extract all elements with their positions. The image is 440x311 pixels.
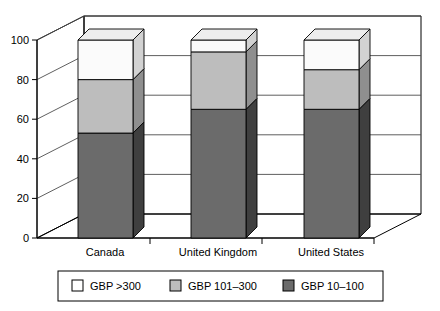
y-axis — [32, 40, 37, 238]
legend: GBP >300 GBP 101–300 GBP 10–100 — [58, 271, 383, 301]
bar-top-canada[interactable] — [78, 29, 144, 40]
x-axis — [37, 238, 374, 244]
x-axis-category-labels: Canada United Kingdom United States — [86, 246, 365, 258]
bar-segment-canada-2[interactable] — [78, 40, 133, 80]
y-tick-label: 60 — [17, 113, 29, 125]
legend-label-gbp-101-300: GBP 101–300 — [188, 280, 257, 292]
y-tick-label: 80 — [17, 74, 29, 86]
bar-top-united-kingdom[interactable] — [191, 29, 257, 40]
bar-segment-canada-1[interactable] — [78, 80, 133, 133]
bar-segment-united-states-2[interactable] — [304, 40, 359, 70]
legend-label-gbp-over-300: GBP >300 — [90, 280, 141, 292]
y-tick-label: 40 — [17, 153, 29, 165]
legend-swatch-gbp-over-300 — [72, 280, 83, 291]
bar-top-united-states[interactable] — [304, 29, 370, 40]
legend-swatch-gbp-10-100 — [283, 280, 294, 291]
bar-segment-united-kingdom-1[interactable] — [191, 52, 246, 109]
bar-side-united-kingdom-0[interactable] — [246, 98, 257, 238]
stacked-bar-chart: 100 80 60 40 20 0 Canada United Kingdom … — [0, 0, 440, 311]
bar-segment-united-kingdom-0[interactable] — [191, 109, 246, 238]
y-axis-tick-labels: 100 80 60 40 20 0 — [11, 34, 29, 244]
bar-side-canada-0[interactable] — [133, 122, 144, 238]
y-tick-label: 20 — [17, 192, 29, 204]
bar-segment-canada-0[interactable] — [78, 133, 133, 238]
chart-container: 100 80 60 40 20 0 Canada United Kingdom … — [0, 0, 440, 311]
legend-swatch-gbp-101-300 — [170, 280, 181, 291]
bar-segment-united-states-1[interactable] — [304, 70, 359, 110]
y-tick-label: 100 — [11, 34, 29, 46]
category-label-united-kingdom: United Kingdom — [179, 246, 257, 258]
category-label-canada: Canada — [86, 246, 125, 258]
bar-side-united-states-0[interactable] — [359, 98, 370, 238]
bars-group — [78, 29, 370, 238]
bar-side-united-kingdom-1[interactable] — [246, 41, 257, 109]
category-label-united-states: United States — [298, 246, 365, 258]
bar-segment-united-states-0[interactable] — [304, 109, 359, 238]
bar-segment-united-kingdom-2[interactable] — [191, 40, 246, 52]
legend-label-gbp-10-100: GBP 10–100 — [301, 280, 364, 292]
y-tick-label: 0 — [23, 232, 29, 244]
